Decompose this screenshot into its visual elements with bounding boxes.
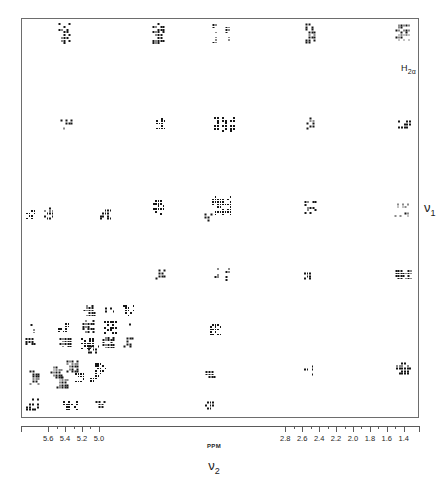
- contour-speck: [217, 128, 219, 130]
- contour-speck: [217, 329, 219, 331]
- x-axis-minor-tick: [361, 426, 362, 429]
- contour-speck: [230, 120, 232, 122]
- contour-peak: [83, 320, 96, 334]
- contour-speck: [26, 409, 28, 411]
- contour-speck: [163, 208, 165, 210]
- contour-speck: [61, 369, 63, 371]
- x-axis-tick-label: 1.6: [382, 434, 392, 443]
- contour-speck: [158, 205, 160, 207]
- contour-speck: [31, 218, 33, 220]
- contour-speck: [407, 204, 409, 206]
- x-axis-tick: [285, 426, 286, 432]
- contour-speck: [31, 343, 33, 345]
- contour-speck: [85, 331, 87, 333]
- contour-speck: [85, 323, 87, 325]
- contour-speck: [67, 379, 69, 381]
- contour-speck: [158, 40, 160, 42]
- contour-speck: [64, 42, 66, 44]
- contour-speck: [59, 23, 61, 25]
- contour-speck: [64, 37, 66, 39]
- contour-speck: [310, 207, 312, 209]
- x-axis-tick: [65, 426, 66, 432]
- contour-speck: [66, 29, 68, 31]
- contour-speck: [309, 275, 311, 277]
- contour-speck: [163, 205, 165, 207]
- contour-speck: [305, 212, 307, 214]
- contour-speck: [112, 324, 114, 326]
- contour-speck: [212, 204, 214, 206]
- contour-speck: [84, 345, 86, 347]
- contour-speck: [405, 206, 407, 208]
- contour-speck: [57, 387, 59, 389]
- contour-speck: [220, 326, 222, 328]
- contour-speck: [110, 327, 112, 329]
- contour-speck: [72, 363, 74, 365]
- contour-speck: [76, 404, 78, 406]
- contour-peak: [84, 305, 97, 317]
- contour-peak: [96, 401, 107, 411]
- contour-speck: [306, 39, 308, 41]
- x-axis-tick: [99, 426, 100, 432]
- contour-speck: [230, 196, 232, 198]
- contour-peak: [215, 268, 220, 282]
- contour-speck: [108, 339, 110, 341]
- contour-peak: [60, 338, 73, 348]
- contour-speck: [220, 334, 222, 336]
- contour-speck: [129, 343, 131, 345]
- contour-speck: [153, 26, 155, 28]
- contour-speck: [212, 405, 214, 407]
- contour-speck: [155, 26, 157, 28]
- contour-peak: [307, 118, 318, 131]
- contour-speck: [71, 122, 73, 124]
- x-axis-tick-label: 2.2: [331, 434, 341, 443]
- contour-speck: [84, 310, 86, 312]
- contour-speck: [408, 29, 410, 31]
- x-axis-tick: [370, 426, 371, 432]
- contour-speck: [408, 25, 410, 27]
- contour-peak: [61, 120, 74, 131]
- contour-speck: [311, 29, 313, 31]
- y-axis-title: ν1: [424, 200, 436, 218]
- contour-speck: [60, 343, 62, 345]
- contour-speck: [69, 34, 71, 36]
- contour-speck: [112, 332, 114, 334]
- contour-speck: [77, 368, 79, 370]
- contour-speck: [205, 217, 207, 219]
- contour-speck: [225, 128, 227, 130]
- contour-peak: [104, 321, 118, 335]
- x-axis-tick: [353, 426, 354, 432]
- contour-speck: [163, 31, 165, 33]
- contour-speck: [217, 122, 219, 124]
- contour-speck: [69, 40, 71, 42]
- contour-speck: [133, 310, 135, 312]
- contour-peak: [304, 366, 314, 377]
- contour-speck: [222, 120, 224, 122]
- contour-peak: [73, 371, 85, 383]
- contour-speck: [72, 361, 74, 363]
- contour-peak: [153, 200, 165, 216]
- contour-speck: [406, 121, 408, 123]
- contour-speck: [306, 29, 308, 31]
- contour-speck: [211, 376, 213, 378]
- contour-speck: [90, 352, 92, 354]
- contour-speck: [32, 409, 34, 411]
- contour-speck: [105, 308, 107, 310]
- contour-speck: [88, 328, 90, 330]
- contour-speck: [52, 213, 54, 215]
- contour-speck: [104, 401, 106, 403]
- contour-speck: [64, 31, 66, 33]
- contour-speck: [69, 366, 71, 368]
- contour-speck: [214, 376, 216, 378]
- contour-speck: [113, 347, 115, 349]
- contour-speck: [81, 343, 83, 345]
- contour-speck: [158, 272, 160, 274]
- contour-speck: [65, 331, 67, 333]
- contour-speck: [129, 324, 131, 326]
- contour-speck: [88, 326, 90, 328]
- contour-speck: [213, 27, 215, 29]
- contour-peak: [210, 324, 222, 336]
- contour-speck: [51, 372, 53, 374]
- contour-speck: [93, 346, 95, 348]
- contour-speck: [66, 122, 68, 124]
- x-axis-tick-label: 5.0: [94, 434, 104, 443]
